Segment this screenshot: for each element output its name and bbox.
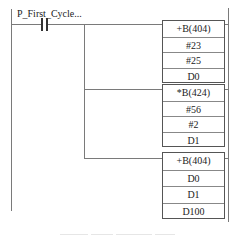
left-power-rail	[11, 9, 12, 211]
figure-caption	[60, 225, 180, 231]
branch-line	[84, 24, 85, 158]
operand: D0	[163, 68, 224, 84]
operand: D0	[163, 170, 224, 187]
instruction-label: +B(404)	[163, 153, 224, 170]
instruction-label: +B(404)	[163, 21, 224, 37]
function-block-add-2[interactable]: +B(404) D0 D1 D100	[162, 152, 225, 219]
operand: #25	[163, 52, 224, 68]
operand: #2	[163, 116, 224, 132]
operand: D1	[163, 186, 224, 203]
branch-line	[84, 158, 162, 159]
right-power-rail	[228, 8, 229, 222]
instruction-label: *B(424)	[163, 85, 224, 101]
operand: #56	[163, 101, 224, 117]
output-line	[225, 158, 228, 159]
function-block-add-1[interactable]: +B(404) #23 #25 D0	[162, 20, 225, 83]
rung-line	[48, 24, 162, 25]
contact-label: P_First_Cycle...	[17, 8, 82, 19]
rung-line	[11, 24, 41, 25]
function-block-multiply[interactable]: *B(424) #56 #2 D1	[162, 84, 225, 147]
output-line	[225, 24, 228, 25]
contact-left-bar	[41, 18, 43, 31]
operand: D100	[163, 203, 224, 220]
operand: D1	[163, 132, 224, 148]
output-line	[225, 89, 228, 90]
branch-line	[84, 89, 162, 90]
operand: #23	[163, 37, 224, 53]
